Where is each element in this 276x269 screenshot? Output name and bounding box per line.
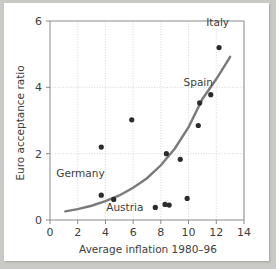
data-point [167,202,172,207]
x-tick-label: 4 [102,226,109,239]
data-point [208,92,213,97]
x-tick-label: 6 [130,226,137,239]
y-tick-label: 2 [35,148,42,161]
y-tick-label: 6 [35,15,42,28]
data-point [197,100,202,105]
point-label: Italy [206,16,229,28]
data-point [164,151,169,156]
point-annotations-group: ItalySpainGermanyAustria [56,16,229,213]
x-tick-label: 12 [209,226,223,239]
tick-marks-group [46,21,244,224]
data-point [196,123,201,128]
data-point [99,193,104,198]
data-point [99,144,104,149]
x-tick-label: 0 [47,226,54,239]
gridlines-group [50,21,244,220]
data-point [185,196,190,201]
y-axis-title: Euro acceptance ratio [14,65,26,180]
scatter-plot: 024681012140246 ItalySpainGermanyAustria… [4,3,269,261]
x-axis-title: Average inflation 1980–96 [79,243,217,255]
data-point [129,117,134,122]
plot-border [50,21,244,220]
axes-group [50,21,244,220]
data-points-group [99,45,222,210]
point-label: Germany [56,167,104,179]
point-label: Austria [106,201,143,213]
x-tick-label: 2 [74,226,81,239]
point-label: Spain [184,76,213,88]
x-tick-label: 10 [182,226,196,239]
y-tick-label: 0 [35,214,42,227]
data-point [178,157,183,162]
x-tick-label: 8 [157,226,164,239]
y-tick-label: 4 [35,81,42,94]
data-point [216,45,221,50]
x-tick-label: 14 [237,226,251,239]
chart-figure: 024681012140246 ItalySpainGermanyAustria… [4,3,269,261]
data-point [153,205,158,210]
